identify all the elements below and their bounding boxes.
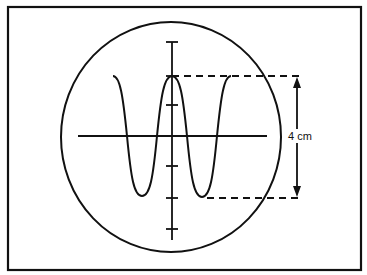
amplitude-label: 4 cm [288,130,312,142]
oscilloscope-diagram: 4 cm [0,0,367,275]
screen-circle [61,22,281,252]
